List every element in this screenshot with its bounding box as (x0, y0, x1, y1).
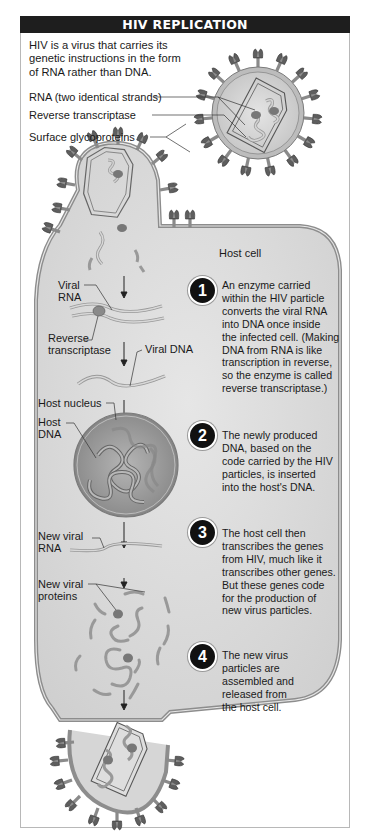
step-3-text: The host cell then transcribes the genes… (222, 527, 336, 617)
step-line: the host cell. (222, 701, 294, 714)
step-line: into the host's DNA. (222, 481, 333, 494)
step-line: released from (222, 688, 294, 701)
label-line: RNA (58, 291, 81, 303)
intro-line: HIV is a virus that carries its (29, 39, 181, 52)
step-line: for the production of (222, 592, 336, 605)
step-line: DNA from RNA is like (222, 344, 339, 357)
step-2-badge: 2 (188, 421, 217, 450)
step-line: converts the viral RNA (222, 305, 339, 318)
label-viral-dna: Viral DNA (145, 343, 193, 356)
step-line: The host cell then (222, 527, 336, 540)
step-line: DNA, based on the (222, 442, 333, 455)
label-line: Host (38, 416, 61, 428)
intro-line: genetic instructions in the form (29, 52, 181, 65)
step-2-text: The newly produced DNA, based on the cod… (222, 429, 333, 494)
step-line: new virus particles. (222, 604, 336, 617)
label-new-viral-proteins: New viral proteins (38, 578, 83, 602)
label-line: New viral (38, 530, 83, 542)
step-line: within the HIV particle (222, 292, 339, 305)
step-line: particles, is inserted (222, 468, 333, 481)
label-line: RNA (38, 542, 83, 554)
intro-line: of RNA rather than DNA. (29, 66, 181, 79)
step-line: transcription in reverse, (222, 356, 339, 369)
step-line: reverse transcriptase.) (222, 382, 339, 395)
free-virus-particle (194, 49, 322, 177)
budding-virus-bottom (50, 722, 185, 830)
step-1-badge: 1 (188, 276, 217, 305)
label-rna-two-strands: RNA (two identical strands) (29, 91, 162, 104)
label-host-dna: Host DNA (38, 416, 61, 440)
label-viral-rna: Viral RNA (58, 279, 81, 303)
label-line: transcriptase (48, 344, 111, 356)
label-reverse-transcriptase-step: Reverse transcriptase (48, 332, 111, 356)
host-cell (36, 127, 340, 720)
label-new-viral-rna: New viral RNA (38, 530, 83, 554)
step-line: An enzyme carried (222, 279, 339, 292)
label-line: DNA (38, 428, 61, 440)
label-line: Viral (58, 279, 81, 291)
step-4-text: The new virus particles are assembled an… (222, 649, 294, 714)
step-line: code carried by the HIV (222, 455, 333, 468)
step-line: The newly produced (222, 429, 333, 442)
intro-text: HIV is a virus that carries its genetic … (29, 39, 181, 79)
step-line: from HIV, much like it (222, 553, 336, 566)
step-line: transcribes other genes. (222, 566, 336, 579)
step-line: assembled and (222, 675, 294, 688)
step-line: The new virus (222, 649, 294, 662)
step-line: particles are (222, 662, 294, 675)
step-line: into DNA once inside (222, 318, 339, 331)
label-reverse-transcriptase: Reverse transcriptase (29, 109, 136, 122)
step-1-text: An enzyme carried within the HIV particl… (222, 279, 339, 395)
step-3-badge: 3 (188, 518, 217, 547)
label-line: New viral (38, 578, 83, 590)
step-line: the infected cell. (Making (222, 331, 339, 344)
step-4-badge: 4 (188, 642, 217, 671)
label-surface-glycoproteins: Surface glycoproteins (29, 131, 135, 144)
label-host-cell: Host cell (219, 247, 261, 260)
step-line: so the enzyme is called (222, 369, 339, 382)
host-nucleus (74, 413, 178, 517)
step-line: But these genes code (222, 579, 336, 592)
label-line: Reverse (48, 332, 111, 344)
label-host-nucleus: Host nucleus (38, 397, 102, 410)
label-line: proteins (38, 590, 83, 602)
step-line: transcribes the genes (222, 540, 336, 553)
